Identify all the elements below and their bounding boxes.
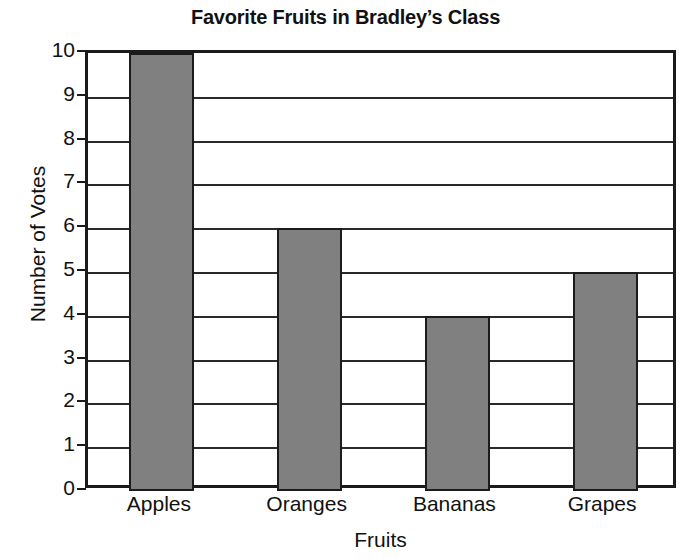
chart-title: Favorite Fruits in Bradley’s Class (0, 6, 691, 29)
y-tick-label: 6 (29, 214, 75, 235)
y-tick-mark (77, 181, 86, 183)
y-tick-mark (77, 488, 86, 490)
y-tick-label: 5 (29, 258, 75, 279)
chart-page: Favorite Fruits in Bradley’s Class Numbe… (0, 0, 691, 559)
y-tick-label: 2 (29, 389, 75, 410)
y-tick-label: 7 (29, 170, 75, 191)
bar (129, 53, 194, 491)
y-tick-label: 1 (29, 433, 75, 454)
bar (425, 316, 490, 491)
y-tick-label: 9 (29, 83, 75, 104)
y-tick-mark (77, 444, 86, 446)
x-tick-label: Bananas (381, 492, 529, 516)
x-tick-label: Apples (85, 492, 233, 516)
y-tick-mark (77, 50, 86, 52)
y-tick-mark (77, 400, 86, 402)
bar (277, 228, 342, 491)
y-tick-mark (77, 313, 86, 315)
x-axis-title: Fruits (85, 528, 676, 552)
y-tick-mark (77, 269, 86, 271)
y-tick-mark (77, 138, 86, 140)
y-tick-label: 8 (29, 127, 75, 148)
y-tick-label: 0 (29, 477, 75, 498)
y-tick-label: 10 (29, 39, 75, 60)
x-tick-label: Oranges (233, 492, 381, 516)
y-tick-label: 4 (29, 302, 75, 323)
y-axis-title: Number of Votes (26, 114, 50, 374)
y-tick-mark (77, 357, 86, 359)
x-tick-label: Grapes (528, 492, 676, 516)
plot-area (85, 50, 676, 488)
y-tick-label: 3 (29, 346, 75, 367)
y-tick-mark (77, 94, 86, 96)
y-tick-mark (77, 225, 86, 227)
bar (573, 272, 638, 491)
